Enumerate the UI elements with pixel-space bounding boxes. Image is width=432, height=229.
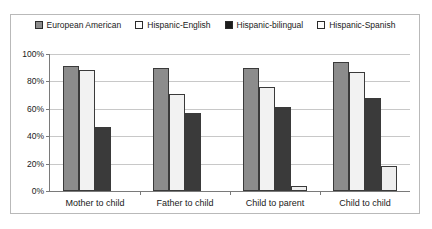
y-axis-label: 80% bbox=[27, 77, 44, 86]
y-axis-label: 40% bbox=[27, 132, 44, 141]
y-axis-label: 0% bbox=[32, 187, 44, 196]
chart-container: European American Hispanic-English Hispa… bbox=[10, 14, 420, 214]
chart-legend: European American Hispanic-English Hispa… bbox=[11, 21, 419, 30]
legend-item-hispanic-english: Hispanic-English bbox=[135, 21, 210, 30]
bar bbox=[349, 72, 365, 191]
legend-label: European American bbox=[47, 21, 122, 30]
legend-label: Hispanic-bilingual bbox=[237, 21, 304, 30]
bar bbox=[381, 166, 397, 191]
legend-swatch-icon bbox=[35, 21, 43, 29]
legend-label: Hispanic-English bbox=[147, 21, 210, 30]
legend-swatch-icon bbox=[135, 21, 143, 29]
legend-item-hispanic-spanish: Hispanic-Spanish bbox=[317, 21, 395, 30]
x-axis-category-label: Child to child bbox=[320, 199, 410, 208]
bar bbox=[365, 98, 381, 191]
legend-swatch-icon bbox=[317, 21, 325, 29]
bar-group: Father to child bbox=[140, 54, 230, 191]
bar bbox=[333, 62, 349, 191]
legend-item-hispanic-bilingual: Hispanic-bilingual bbox=[225, 21, 304, 30]
bar bbox=[79, 70, 95, 191]
bar-groups: Mother to childFather to childChild to p… bbox=[50, 54, 410, 191]
bar bbox=[63, 66, 79, 191]
y-axis-label: 100% bbox=[22, 50, 44, 59]
plot-area: 100%80%60%40%20%0% Mother to childFather… bbox=[49, 54, 410, 192]
bar bbox=[169, 94, 185, 191]
x-axis-category-label: Mother to child bbox=[50, 199, 140, 208]
legend-item-european-american: European American bbox=[35, 21, 122, 30]
bar bbox=[185, 113, 201, 191]
bar bbox=[95, 127, 111, 191]
bar bbox=[153, 68, 169, 191]
legend-label: Hispanic-Spanish bbox=[329, 21, 395, 30]
y-axis-label: 20% bbox=[27, 159, 44, 168]
bar bbox=[291, 186, 307, 191]
y-axis-tick bbox=[46, 191, 50, 192]
bar bbox=[259, 87, 275, 191]
bar bbox=[275, 107, 291, 191]
bar bbox=[243, 68, 259, 191]
bar-group: Child to child bbox=[320, 54, 410, 191]
bar-group: Mother to child bbox=[50, 54, 140, 191]
legend-swatch-icon bbox=[225, 21, 233, 29]
bar-group: Child to parent bbox=[230, 54, 320, 191]
x-axis-category-label: Child to parent bbox=[230, 199, 320, 208]
y-axis-label: 60% bbox=[27, 105, 44, 114]
x-axis-category-label: Father to child bbox=[140, 199, 230, 208]
